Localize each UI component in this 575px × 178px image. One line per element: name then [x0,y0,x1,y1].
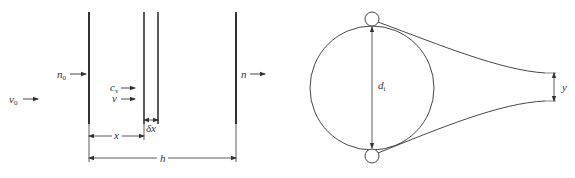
h-label: h [160,152,166,164]
lower-neck-curve [378,101,545,153]
v-label: v [112,92,117,104]
drop-neck-diagram: di y [310,12,567,163]
dx-label: δx [146,122,156,134]
v0-label: v0 [9,93,18,107]
upper-neck-curve [378,22,545,73]
diagram-canvas: v0 n0 cv v n δx x h di [0,0,575,178]
y-label: y [561,81,567,93]
x-label: x [113,129,119,141]
bottom-small-circle [365,149,379,163]
n-label: n [241,68,247,80]
top-small-circle [365,12,379,26]
plate-diagram: v0 n0 cv v n δx x h [9,12,265,164]
n0-label: n0 [57,68,67,82]
di-label: di [378,79,386,93]
